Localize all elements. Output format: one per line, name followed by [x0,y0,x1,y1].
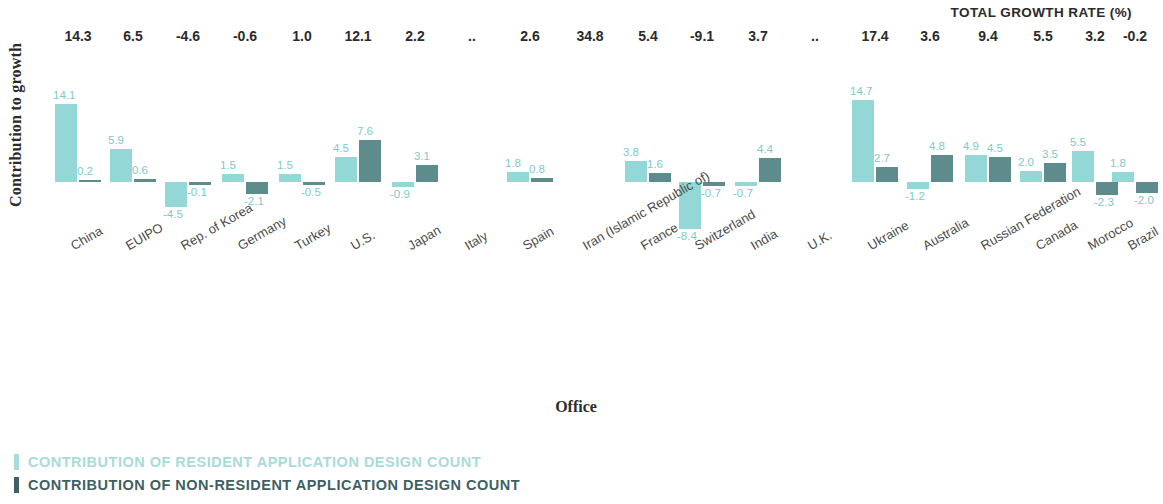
bar-label-resident: 1.5 [277,159,293,171]
bar-group: 1.8-2.0 [1108,28,1163,238]
chart-column: 3.7-0.74.4 [731,28,786,238]
bar-label-nonresident: 4.8 [929,140,945,152]
bar-resident [110,149,132,182]
bar-resident [165,182,187,207]
bar-resident [965,155,987,182]
chart-column: 12.14.57.6 [331,28,386,238]
bar-nonresident [989,157,1011,182]
chart-legend: CONTRIBUTION OF RESIDENT APPLICATION DES… [14,450,520,496]
bar-nonresident [303,182,325,185]
chart-column: 6.55.90.6 [106,28,161,238]
bar-resident [1020,171,1042,182]
bar-label-nonresident: 0.8 [529,163,545,175]
bar-nonresident [79,180,101,183]
bar-label-resident: 5.5 [1070,136,1086,148]
bar-nonresident [931,155,953,182]
bar-label-nonresident: -2.0 [1134,194,1154,206]
legend-item-nonresident: CONTRIBUTION OF NON-RESIDENT APPLICATION… [14,473,520,496]
bar-label-resident: 14.1 [53,89,75,101]
bar-resident [279,174,301,182]
bar-label-resident: 1.5 [220,159,236,171]
bar-nonresident [1044,163,1066,182]
bar-group [563,28,618,238]
bar-group: -8.4-0.7 [675,28,730,238]
bar-label-resident: 3.8 [623,146,639,158]
legend-label-nonresident: CONTRIBUTION OF NON-RESIDENT APPLICATION… [28,477,520,493]
bar-label-nonresident: 7.6 [357,125,373,137]
bar-group: 14.10.2 [51,28,106,238]
bar-group: 1.80.8 [503,28,558,238]
bar-label-nonresident: 1.6 [647,158,663,170]
bar-nonresident [1136,182,1158,193]
bar-resident [1112,172,1134,182]
chart-column: .. [445,28,500,238]
chart-column: 17.414.72.7 [848,28,903,238]
bar-nonresident [134,179,156,182]
bar-group: -0.93.1 [388,28,443,238]
bar-resident [222,174,244,182]
bar-group: 5.90.6 [106,28,161,238]
bar-label-resident: 1.8 [1110,157,1126,169]
bar-label-resident: 2.0 [1018,156,1034,168]
bar-group: 4.94.5 [961,28,1016,238]
bar-nonresident [649,173,671,182]
bar-label-resident: -0.9 [390,188,410,200]
legend-swatch-resident [14,454,19,470]
bar-resident [852,100,874,182]
bar-label-resident: -0.7 [733,187,753,199]
bar-group: 4.57.6 [331,28,386,238]
bar-resident [1072,151,1094,182]
bar-resident [392,182,414,187]
chart-column: -4.6-4.5-0.1 [161,28,216,238]
y-axis-title-text: Contribution to growth [7,43,25,207]
chart-column: 3.6-1.24.8 [903,28,958,238]
chart-column: 1.01.5-0.5 [275,28,330,238]
x-axis-tick-labels: ChinaEUIPORep. of KoreaGermanyTurkeyU.S.… [40,238,1140,368]
chart-column: 2.61.80.8 [503,28,558,238]
bar-label-nonresident: 0.2 [77,165,93,177]
chart-column: .. [788,28,843,238]
bar-resident [507,172,529,182]
bar-label-nonresident: 4.4 [757,143,773,155]
bar-label-nonresident: 4.5 [987,142,1003,154]
chart-column: -9.1-8.4-0.7 [675,28,730,238]
bar-label-nonresident: 3.5 [1042,148,1058,160]
chart-column: 9.44.94.5 [961,28,1016,238]
total-growth-rate-header: TOTAL GROWTH RATE (%) [951,5,1132,20]
chart-column: -0.21.8-2.0 [1108,28,1163,238]
bar-group: -1.24.8 [903,28,958,238]
bar-group [788,28,843,238]
bar-group: 1.5-0.5 [275,28,330,238]
bar-resident [335,157,357,182]
bar-resident [907,182,929,189]
bar-group: -0.74.4 [731,28,786,238]
bar-nonresident [246,182,268,194]
bar-nonresident [876,167,898,182]
legend-label-resident: CONTRIBUTION OF RESIDENT APPLICATION DES… [28,454,481,470]
bar-nonresident [416,165,438,182]
bar-label-nonresident: -0.1 [187,186,207,198]
chart-plot-area: 14.314.10.26.55.90.6-4.6-4.5-0.1-0.61.5-… [40,28,1140,238]
bar-label-resident: 1.8 [505,157,521,169]
bar-group [445,28,500,238]
bar-resident [735,182,757,186]
chart-column: 2.2-0.93.1 [388,28,443,238]
bar-label-resident: 4.5 [333,142,349,154]
bar-label-nonresident: -0.5 [301,186,321,198]
bar-label-nonresident: -0.7 [701,187,721,199]
bar-label-resident: -4.5 [163,208,183,220]
bar-label-resident: 4.9 [963,140,979,152]
bar-group: 14.72.7 [848,28,903,238]
x-axis-title: Office [0,398,1152,416]
bar-group: -4.5-0.1 [161,28,216,238]
chart-column: 34.8 [563,28,618,238]
chart-column: 14.314.10.2 [51,28,106,238]
y-axis-title: Contribution to growth [0,0,32,250]
bar-nonresident [759,158,781,182]
bar-label-resident: -1.2 [905,190,925,202]
bar-label-resident: 5.9 [108,134,124,146]
bar-label-nonresident: 2.7 [874,152,890,164]
legend-item-resident: CONTRIBUTION OF RESIDENT APPLICATION DES… [14,450,520,473]
bar-nonresident [189,182,211,185]
bar-nonresident [531,178,553,182]
